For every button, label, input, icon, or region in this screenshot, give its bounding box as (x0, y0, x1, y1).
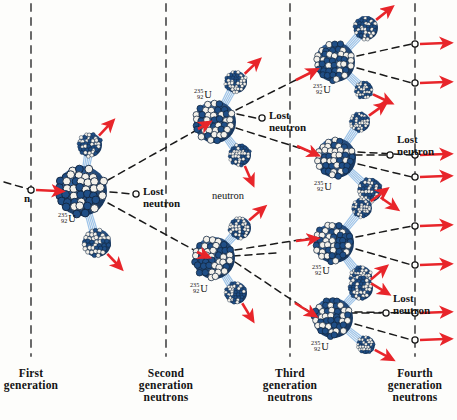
gen-caption-fourth: Fourth generation neutrons (388, 367, 442, 403)
lost-line2: neutron (143, 198, 180, 210)
isotope-label-gen1-main: 23592U (58, 212, 76, 225)
isotope-numbers: 23592 (58, 212, 67, 225)
isotope-label-gen3-lower-mid: 23592U (312, 264, 330, 277)
incident-neutron-arrow (36, 190, 57, 191)
fission-fragment-frag-g3t-dn (354, 81, 373, 99)
lost-line1: Lost (143, 186, 180, 198)
fourth-gen-arrow-cross-1 (420, 43, 445, 44)
uranium-nucleus-gen2-upper (193, 100, 236, 143)
neutron-path-gen3-top-cross-1 (357, 44, 412, 56)
lost-line1: Lost (269, 110, 306, 122)
isotope-numbers: 23592 (314, 180, 323, 193)
atomic-number: 92 (194, 94, 203, 100)
isotope-label-gen3-bottom: 23592U (311, 340, 329, 353)
lost-neutron-marker-lost-3 (387, 152, 393, 158)
fission-fragment-frag-g1-dn (82, 228, 111, 257)
fourth-gen-neutron-marker-cross-8 (412, 337, 418, 343)
gen-caption-third: Third generation neutrons (263, 367, 317, 403)
lost-neutron-label: Lost neutron (393, 293, 430, 316)
element-symbol: U (68, 213, 76, 224)
isotope-numbers: 23592 (311, 340, 320, 353)
fragment-recoil-arrow-frag-g2l-dn (242, 303, 250, 316)
isotope-label-gen2-lower: 23592U (190, 282, 208, 295)
lost-neutron-marker-lost-2 (259, 115, 265, 121)
atomic-number: 92 (314, 186, 323, 192)
incident-neutron-path (4, 182, 28, 189)
neutron-arrival-g3t (296, 72, 312, 80)
neutron-path-gen3-lower-mid-cross-6 (356, 249, 412, 265)
neutron-path-g2l-extra (233, 253, 276, 256)
element-symbol: U (323, 84, 331, 95)
neutron-path-g1-lost (110, 192, 133, 194)
neutron-path-g1-to-g2l (108, 203, 194, 250)
fourth-gen-neutron-marker-cross-1 (412, 41, 418, 47)
fourth-gen-arrow-cross-5 (420, 225, 445, 226)
fourth-gen-neutron-marker-cross-2 (412, 80, 418, 86)
lost-neutron-marker-lost-4 (383, 310, 389, 316)
neutron-path-g2u-lost (237, 114, 260, 119)
gen-caption-line2: generation (4, 379, 58, 391)
neutron-label: neutron (212, 190, 244, 201)
neutron-arrival-g3b (295, 303, 311, 313)
fragment-recoil-arrow-frag-g3lm-dn (371, 283, 384, 291)
lost-neutron-label: Lost neutron (143, 186, 180, 209)
nuclei-group (56, 16, 382, 354)
fission-fragment-frag-g2l-up (228, 216, 251, 240)
lost-line2: neutron (269, 122, 306, 134)
gen-caption-line1: Fourth (388, 367, 442, 379)
neutron-path-gen3-upper-mid-cross-4 (358, 164, 412, 177)
fragment-recoil-arrow-frag-g1-dn (107, 254, 117, 265)
fragment-recoil-arrow-frag-g2l-up (249, 211, 260, 221)
isotope-label-gen3-upper-mid: 23592U (314, 180, 332, 193)
lost-line1: Lost (393, 293, 430, 305)
uranium-nucleus-gen1-main (56, 165, 108, 218)
fourth-gen-arrow-cross-2 (420, 82, 445, 83)
lost-line1: Lost (397, 134, 434, 146)
fission-fragment-frag-g3b-dn (356, 336, 375, 354)
element-symbol: U (204, 89, 212, 100)
neutron-path-gen3-lower-mid-cross-5 (356, 226, 412, 237)
isotope-numbers: 23592 (194, 88, 203, 101)
diagram-canvas (0, 0, 457, 420)
isotope-label-gen3-top: 23592U (313, 83, 331, 96)
fragment-recoil-arrow-frag-g3t-dn (373, 94, 387, 100)
fourth-gen-neutron-marker-cross-6 (412, 262, 418, 268)
isotope-label-gen2-upper: 23592U (194, 88, 212, 101)
gen-caption-line2: generation (388, 379, 442, 391)
neutron-arrival-g3um (297, 146, 313, 153)
gen-caption-line1: Second (139, 367, 193, 379)
fragment-recoil-arrow-frag-g2u-up (245, 63, 256, 73)
fourth-gen-arrow-cross-6 (420, 264, 445, 265)
atomic-number: 92 (311, 346, 320, 352)
fragment-recoil-arrow-frag-g2u-dn (245, 166, 251, 180)
gen-caption-line3: neutrons (263, 391, 317, 403)
gen-caption-line3: neutrons (139, 391, 193, 403)
fourth-gen-arrow-cross-4 (420, 176, 445, 177)
gen-caption-line2: generation (139, 379, 193, 391)
lost-line2: neutron (397, 146, 434, 158)
gen-caption-line3: neutrons (388, 391, 442, 403)
element-symbol: U (322, 265, 330, 276)
fragment-recoil-arrow-frag-g3b-up (371, 270, 382, 280)
atomic-number: 92 (312, 270, 321, 276)
lost-neutron-label: Lost neutron (397, 134, 434, 157)
isotope-numbers: 23592 (190, 282, 199, 295)
gen-caption-line1: First (4, 367, 58, 379)
fission-fragment-frag-g1-up (77, 132, 102, 158)
fragment-recoil-arrow-frag-g3um-up (369, 107, 381, 116)
neutron-path-gen3-top-cross-2 (357, 68, 412, 83)
element-symbol: U (324, 181, 332, 192)
atomic-number: 92 (58, 218, 67, 224)
gen-caption-first: First generation (4, 367, 58, 391)
fragment-recoil-arrow-frag-g1-up (99, 125, 109, 136)
fourth-gen-neutron-marker-cross-5 (412, 223, 418, 229)
neutron-path-g1-to-g2u (108, 131, 195, 180)
element-symbol: U (321, 341, 329, 352)
isotope-numbers: 23592 (312, 264, 321, 277)
fragment-recoil-arrow-frag-g3t-up (376, 11, 388, 20)
incident-neutron-label: n (24, 193, 30, 205)
lost-neutron-marker-lost-1 (133, 191, 139, 197)
gen-caption-line1: Third (263, 367, 317, 379)
gen-caption-second: Second generation neutrons (139, 367, 193, 403)
fission-fragment-frag-g2l-dn (224, 281, 247, 304)
